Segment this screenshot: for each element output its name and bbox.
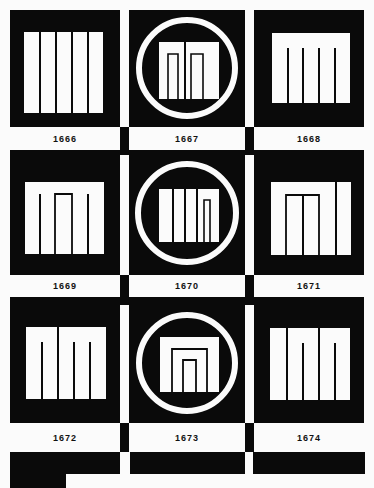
alternating-line-icon [254, 305, 364, 423]
row-divider [10, 297, 120, 305]
bottom-bar [130, 452, 245, 474]
gutter-block [120, 423, 129, 452]
emblem-1672 [10, 305, 120, 423]
four-line-icon [254, 10, 364, 127]
five-panel-icon [10, 10, 120, 127]
bottom-bar [253, 452, 365, 474]
double-arch-icon [254, 155, 364, 275]
label-1666: 1666 [10, 127, 120, 150]
center-arch-icon [10, 155, 120, 275]
gutter-block [120, 275, 129, 305]
label-1668: 1668 [254, 127, 364, 150]
emblem-1669 [10, 155, 120, 275]
emblem-1666 [10, 10, 120, 127]
label-1669: 1669 [10, 275, 120, 297]
circle-arch-icon [129, 10, 245, 127]
emblem-1674 [254, 305, 364, 423]
mixed-line-icon [10, 305, 120, 423]
gutter-block [245, 275, 254, 305]
label-1670: 1670 [129, 275, 245, 297]
circle-bars-icon [129, 155, 245, 275]
emblem-1673 [129, 305, 245, 423]
emblem-1671 [254, 155, 364, 275]
emblem-1668 [254, 10, 364, 127]
label-1674: 1674 [254, 423, 364, 452]
circle-nested-arch-icon [129, 305, 245, 423]
label-1672: 1672 [10, 423, 120, 452]
gutter-block [245, 423, 254, 452]
gutter-block [245, 127, 254, 155]
row-divider [254, 297, 364, 305]
label-1667: 1667 [129, 127, 245, 150]
label-1673: 1673 [129, 423, 245, 452]
emblem-1667 [129, 10, 245, 127]
bottom-bar [10, 452, 120, 474]
emblem-1670 [129, 155, 245, 275]
label-1671: 1671 [254, 275, 364, 297]
gutter-block [120, 127, 129, 155]
row-divider [129, 297, 245, 305]
bottom-bar [10, 474, 66, 488]
